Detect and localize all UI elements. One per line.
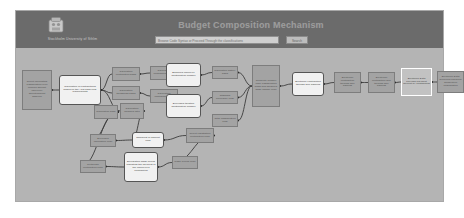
diagram-edge (324, 83, 334, 85)
diagram-edge (158, 163, 172, 168)
diagram-edge (201, 98, 212, 107)
diagram-node-label: Certificate contribution code (82, 164, 104, 170)
diagram-edge (164, 136, 186, 141)
diagram-node[interactable]: Standard procedure code (212, 91, 238, 104)
diagram-edge (238, 73, 252, 87)
diagram-node[interactable]: Complete number code classification basi… (252, 65, 280, 107)
diagram-node-label: Total classification code (214, 118, 236, 124)
diagram-node[interactable]: Electronic contribution through wire ban… (334, 72, 361, 93)
diagram-node-label: Select calculating classification level … (24, 81, 50, 98)
diagram-node[interactable]: Wage Period code (172, 156, 198, 169)
diagram-edge (201, 73, 212, 76)
diagram-edge (280, 84, 292, 86)
diagram-node-label: Calculation thresholds basis (114, 90, 138, 96)
diagram-edge (116, 140, 132, 141)
diagram-node-label: Calculation base (96, 111, 115, 114)
diagram-node-label: Calculation modified ratio (122, 108, 142, 114)
search-bar: Browse Code Syntax or Proceed Through th… (155, 36, 345, 45)
diagram-node[interactable]: Balanced employer identification number (166, 63, 201, 87)
site-title: Budget Composition Mechanism (136, 20, 366, 31)
diagram-node[interactable]: Calculation modified ratio (120, 103, 144, 119)
institution-crest-icon (45, 15, 67, 35)
diagram-node-label: Electronic Data Received Payment Complet… (439, 76, 462, 88)
diagram-node[interactable]: Electronic contribution through wire ban… (292, 72, 324, 96)
diagram-node[interactable]: Calculation history basis (212, 66, 238, 79)
diagram-node-label: Electronic Data Payload Payment Receipt … (403, 78, 430, 87)
diagram-node-label: Declaration wage period indicating the p… (126, 161, 156, 173)
diagram-node[interactable]: Certificate contribution code (80, 160, 106, 173)
diagram-node-label: Exercised taxation identification number (168, 103, 199, 109)
diagram-node[interactable]: Total classification code (212, 114, 238, 127)
diagram-node-label: Complete number code classification basi… (254, 80, 278, 92)
diagram-node-label: Electronic contribution through wire ban… (294, 81, 322, 87)
diagram-node[interactable]: Select registration contribution code (186, 128, 214, 143)
diagram-node[interactable]: Calculation thresholds basis (112, 86, 140, 100)
diagram-node-label: Balanced employer identification number (168, 72, 199, 78)
diagram-node-label: Wage Period code (174, 161, 195, 164)
diagram-node-label: Exercised calculation code (92, 138, 114, 144)
diagram-node[interactable]: Electronic Data Received Payment Complet… (437, 71, 464, 93)
diagram-node-label: Electronic contribution wire through wir… (370, 77, 393, 89)
diagram-node-label: Electronic contribution through wire ban… (336, 77, 359, 89)
organization-name: Stockholm University of Sthlm (25, 37, 120, 41)
diagram-node[interactable]: Electronic contribution wire through wir… (368, 72, 395, 93)
diagram-node-label: Shipment of amount paid (134, 137, 162, 143)
search-input[interactable]: Browse Code Syntax or Proceed Through th… (155, 36, 279, 44)
diagram-canvas[interactable]: Select calculating classification level … (16, 48, 443, 201)
diagram-node-label: Standard procedure code (214, 95, 236, 101)
diagram-node-label: Calculation contribution basis (114, 71, 138, 77)
diagram-node[interactable]: Calculation of contributions based on th… (59, 75, 101, 105)
diagram-node[interactable]: Calculation base (94, 105, 118, 119)
diagram-node[interactable]: Exercised calculation code (90, 134, 116, 147)
diagram-node[interactable]: Electronic Data Payload Payment Receipt … (401, 68, 432, 96)
diagram-node-label: Select registration contribution code (188, 133, 212, 139)
diagram-edge (140, 93, 150, 96)
diagram-node-label: Calculation history basis (214, 70, 236, 76)
diagram-node[interactable]: Declaration wage period indicating the p… (124, 152, 158, 182)
diagram-edge (101, 74, 112, 90)
diagram-edge (106, 167, 124, 168)
browser-content-frame: Stockholm University of Sthlm Budget Com… (16, 11, 443, 201)
diagram-node[interactable]: Shipment of amount paid (132, 132, 164, 148)
diagram-node[interactable]: Calculation contribution basis (112, 67, 140, 81)
diagram-node[interactable]: Select calculating classification level … (22, 70, 52, 110)
site-header: Stockholm University of Sthlm Budget Com… (16, 11, 443, 48)
diagram-edge (140, 73, 150, 74)
diagram-node[interactable]: Exercised taxation identification number (166, 94, 201, 118)
diagram-node-label: Calculation of contributions based on th… (61, 86, 99, 95)
search-button[interactable]: Search (286, 36, 308, 44)
